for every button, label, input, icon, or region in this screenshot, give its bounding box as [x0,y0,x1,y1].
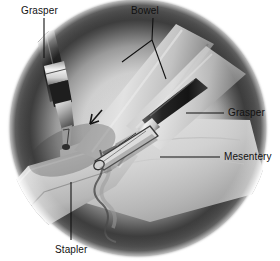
field-edge-fade [6,0,270,260]
surgical-scene [0,0,280,261]
label-stapler: Stapler [55,244,87,255]
operative-field [0,0,270,260]
label-bowel: Bowel [131,5,159,16]
label-mesentery: Mesentery [224,151,272,162]
label-grasper-left: Grasper [21,5,58,16]
label-grasper-right: Grasper [228,107,265,118]
figure-container: Grasper Bowel Grasper Mesentery Stapler [0,0,280,261]
